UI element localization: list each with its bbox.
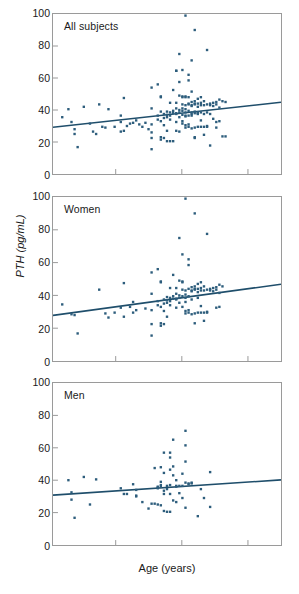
data-point [215,307,217,309]
data-point [190,59,192,61]
data-point [70,491,72,493]
data-point [150,323,152,325]
data-point [215,121,217,123]
data-point [113,311,115,313]
data-point [187,126,189,128]
data-point [175,107,177,109]
data-point [166,488,168,490]
pth-age-scatter-figure: All subjects 100806040200 Women 10080604… [0,0,299,594]
data-point [218,98,220,100]
data-point [181,69,183,71]
data-point [190,114,192,116]
data-point [200,311,202,313]
data-point [178,130,180,132]
data-point [190,286,192,288]
data-point [190,101,192,103]
data-point [129,122,131,124]
data-point [120,130,122,132]
data-point [184,301,186,303]
data-point [172,274,174,276]
data-point [104,312,106,314]
data-point [178,279,180,281]
data-point [150,148,152,150]
data-point [70,121,72,123]
data-point [218,120,220,122]
data-point [147,507,149,509]
data-point [190,298,192,300]
data-point [178,485,180,487]
data-point [187,311,189,313]
data-point [218,284,220,286]
data-point [197,106,199,108]
data-point [157,268,159,270]
data-point [169,304,171,306]
data-point [187,79,189,81]
data-point [150,86,152,88]
data-point [212,290,214,292]
data-point [160,136,162,138]
data-point [197,98,199,100]
y-tick-label: 0 [4,169,50,181]
y-tick-label: 40 [4,104,50,116]
data-point [129,306,131,308]
scatter-points [61,197,224,336]
data-point [76,146,78,148]
panel-title-all-subjects: All subjects [64,20,118,32]
data-point [73,517,75,519]
y-axis-ticks-men: 100806040200 [0,382,50,546]
data-point [166,114,168,116]
data-point [200,126,202,128]
data-point [166,140,168,142]
data-point [194,312,196,314]
panel-men: Men [52,382,282,546]
data-point [150,137,152,139]
data-point [218,292,220,294]
data-point [157,118,159,120]
data-point [123,97,125,99]
y-tick-label: 60 [4,256,50,268]
data-point [172,474,174,476]
data-point [197,288,199,290]
data-point [209,104,211,106]
data-point [144,122,146,124]
data-point [206,111,208,113]
data-point [209,144,211,146]
data-point [160,96,162,98]
data-point [184,507,186,509]
data-point [67,108,69,110]
panel-all-subjects: All subjects [52,13,282,175]
data-point [178,94,180,96]
data-point [190,313,192,315]
data-point [178,81,180,83]
data-point [181,288,183,290]
data-point [150,123,152,125]
data-point [147,128,149,130]
data-point [212,287,214,289]
data-point [203,285,205,287]
data-point [218,106,220,108]
data-point [169,300,171,302]
data-point [187,114,189,116]
data-point [224,101,226,103]
data-point [169,297,171,299]
data-point [200,281,202,283]
data-point [178,237,180,239]
y-tick-label: 60 [4,442,50,454]
data-point [169,102,171,104]
data-point [187,96,189,98]
data-point [203,320,205,322]
data-point [200,102,202,104]
data-point [187,309,189,311]
data-point [206,126,208,128]
data-point [73,128,75,130]
data-point [187,264,189,266]
data-point [163,472,165,474]
data-point [126,125,128,127]
data-point [190,105,192,107]
data-point [190,482,192,484]
data-point [172,140,174,142]
data-point [73,133,75,135]
data-point [175,307,177,309]
x-axis-label: Age (years) [52,562,282,574]
data-point [98,103,100,105]
